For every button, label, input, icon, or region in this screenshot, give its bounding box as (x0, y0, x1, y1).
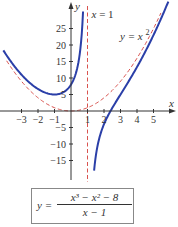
annotations-layer: x = 1 y = x 2 (91, 8, 150, 42)
x-tick-label: 5 (151, 114, 156, 125)
parabola-label-rhs: = x (128, 30, 143, 42)
y-tick-label: −15 (50, 155, 66, 166)
formula-numerator: x³ − x² − 8 (57, 191, 132, 205)
x-tick-label: 4 (135, 114, 140, 125)
formula-lhs: y = (37, 199, 52, 211)
y-tick-label: 25 (56, 23, 66, 34)
y-axis-label: y (74, 0, 80, 12)
y-tick-label: 5 (61, 89, 66, 100)
formula-fraction: x³ − x² − 8 x − 1 (57, 191, 132, 218)
x-axis-arrow-icon (169, 109, 176, 114)
x-tick-label: 2 (102, 114, 107, 125)
rational-curve-right-branch (94, 2, 168, 171)
formula-denominator: x − 1 (57, 205, 132, 218)
x-tick-label: 1 (85, 114, 90, 125)
x-tick-label: −2 (33, 114, 44, 125)
y-tick-label: 20 (56, 40, 66, 51)
x-tick-label: −3 (16, 114, 27, 125)
y-tick-label: 10 (56, 73, 66, 84)
asymptote-label-var: x (91, 8, 97, 20)
y-tick-label: −5 (55, 122, 66, 133)
curves-layer (3, 2, 168, 182)
y-tick-label: −10 (50, 139, 66, 150)
x-axis-label: x (168, 97, 174, 109)
parabola-label-var: y (119, 30, 125, 42)
x-tick-label: 3 (118, 114, 123, 125)
parabola-label: y = x 2 (119, 28, 149, 42)
parabola-line (7, 13, 161, 111)
parabola-label-exponent: 2 (145, 28, 149, 37)
y-axis-arrow-icon (69, 2, 74, 9)
asymptote-label-value: = 1 (99, 8, 113, 20)
asymptote-label: x = 1 (91, 8, 114, 20)
y-tick-label: 15 (56, 56, 66, 67)
formula-box: y = x³ − x² − 8 x − 1 (31, 188, 134, 224)
ticks-layer: −3−2−112345252015105−5−10−15 (16, 23, 156, 166)
